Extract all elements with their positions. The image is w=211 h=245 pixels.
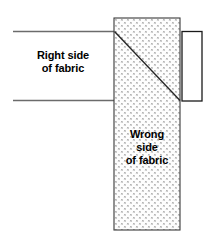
diagram-canvas <box>0 0 211 245</box>
fabric-fold-diagram: Right side of fabric Wrong side of fabri… <box>0 0 211 245</box>
folded-fabric-column <box>114 18 180 230</box>
fabric-tail-rectangle <box>182 32 202 102</box>
